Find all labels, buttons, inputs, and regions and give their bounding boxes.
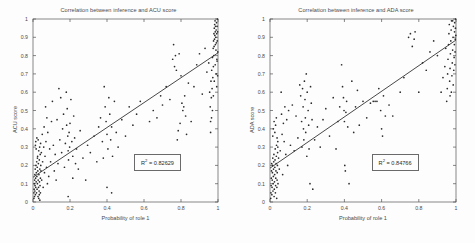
scatter-point [208, 62, 210, 64]
scatter-point [384, 115, 386, 117]
scatter-point [213, 95, 215, 97]
scatter-point [39, 154, 41, 156]
scatter-point [68, 159, 70, 161]
scatter-point [450, 40, 452, 42]
scatter-point [34, 185, 36, 187]
scatter-point [152, 110, 154, 112]
scatter-point [214, 64, 216, 66]
scatter-point [183, 106, 185, 108]
scatter-point [111, 192, 113, 194]
scatter-point [59, 139, 61, 141]
scatter-point [180, 75, 182, 77]
scatter-point [33, 192, 35, 194]
scatter-point [311, 119, 313, 121]
scatter-point [36, 188, 38, 190]
scatter-point [413, 38, 415, 40]
x-axis-label: Probability of role 1 [33, 215, 218, 221]
scatter-point [216, 58, 218, 60]
scatter-point [213, 66, 215, 68]
y-tick-label: 0.6 [237, 89, 265, 95]
scatter-point [370, 102, 372, 104]
scatter-point [217, 75, 219, 77]
scatter-point [343, 97, 345, 99]
scatter-point [448, 33, 450, 35]
scatter-point [290, 144, 292, 146]
scatter-point [325, 108, 327, 110]
scatter-point [63, 113, 65, 115]
scatter-point [193, 86, 195, 88]
scatter-point [271, 163, 273, 165]
axes-frame [270, 19, 456, 202]
scatter-point [275, 124, 277, 126]
scatter-point [276, 197, 278, 199]
scatter-point [277, 141, 279, 143]
scatter-point [322, 119, 324, 121]
scatter-point [286, 119, 288, 121]
x-tick-label: 1 [211, 205, 225, 211]
scatter-point [329, 135, 331, 137]
scatter-point [90, 152, 92, 154]
scatter-point [319, 146, 321, 148]
scatter-point [213, 40, 215, 42]
scatter-point [179, 122, 181, 124]
scatter-point [215, 25, 217, 27]
scatter-point [215, 73, 217, 75]
scatter-point [454, 31, 456, 33]
scatter-point [309, 183, 311, 185]
scatter-point [346, 101, 348, 103]
scatter-point [102, 157, 104, 159]
scatter-point [56, 119, 58, 121]
scatter-point [273, 121, 275, 123]
scatter-point [283, 141, 285, 143]
scatter-point [276, 172, 278, 174]
scatter-point [215, 49, 217, 51]
scatter-point [38, 159, 40, 161]
scatter-point [36, 176, 38, 178]
scatter-point [156, 117, 158, 119]
scatter-point [381, 128, 383, 130]
scatter-point [358, 124, 360, 126]
scatter-point [301, 121, 303, 123]
scatter-point [35, 165, 37, 167]
scatter-point [272, 190, 274, 192]
scatter-point [310, 102, 312, 104]
scatter-point [204, 47, 206, 49]
scatter-point [40, 192, 42, 194]
scatter-point [306, 91, 308, 93]
scatter-point [190, 121, 192, 123]
scatter-point [44, 172, 46, 174]
scatter-point [271, 179, 273, 181]
scatter-point [344, 170, 346, 172]
r-squared-value: 0.84766 [391, 160, 411, 166]
scatter-point [308, 124, 310, 126]
scatter-point [275, 170, 277, 172]
r-squared-value: 0.82629 [154, 160, 174, 166]
scatter-point [66, 124, 68, 126]
r-squared-annotation: R2 = 0.84766 [372, 154, 419, 171]
scatter-point [47, 183, 49, 185]
scatter-point [305, 73, 307, 75]
scatter-point [453, 44, 455, 46]
scatter-point [214, 31, 216, 33]
scatter-point [106, 133, 108, 135]
scatter-point [209, 106, 211, 108]
scatter-point [53, 144, 55, 146]
scatter-point [37, 179, 39, 181]
scatter-point [304, 80, 306, 82]
scatter-point [57, 163, 59, 165]
x-tick-label: 0.4 [337, 205, 351, 211]
scatter-point [453, 57, 455, 59]
scatter-point [284, 106, 286, 108]
x-tick-label: 0.2 [300, 205, 314, 211]
scatter-point [273, 161, 275, 163]
scatter-point [49, 148, 51, 150]
y-axis-label: ACU score [12, 105, 18, 132]
scatter-point [303, 128, 305, 130]
scatter-point [307, 110, 309, 112]
regression-line [33, 53, 218, 177]
chart-acu: Correlation between inference and ACU sc… [0, 0, 237, 243]
scatter-point [34, 190, 36, 192]
scatter-point [48, 176, 50, 178]
scatter-point [39, 168, 41, 170]
scatter-point [273, 128, 275, 130]
